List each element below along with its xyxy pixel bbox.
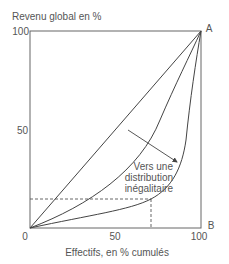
- x-tick-50: 50: [109, 231, 121, 242]
- corner-label-b: B: [208, 220, 215, 231]
- corner-label-a: A: [206, 23, 213, 34]
- annotation-line2: distribution: [125, 172, 173, 183]
- x-tick-100: 100: [191, 231, 208, 242]
- y-tick-100: 100: [12, 26, 29, 37]
- annotation-line3: inégalitaire: [125, 183, 174, 194]
- lorenz-chart: Vers une distribution inégalitaire Reven…: [0, 0, 229, 264]
- annotation-line1: Vers une: [134, 161, 174, 172]
- equality-line: [30, 31, 201, 228]
- y-axis-title: Revenu global en %: [12, 11, 102, 22]
- x-axis-title: Effectifs, en % cumulés: [65, 247, 169, 258]
- x-tick-0: 0: [22, 231, 28, 242]
- y-tick-50: 50: [17, 125, 29, 136]
